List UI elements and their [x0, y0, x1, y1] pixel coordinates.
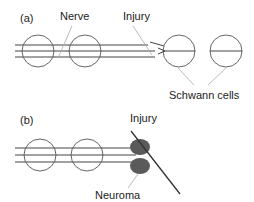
nerve-leader-line	[58, 26, 72, 58]
label-neuroma: Neuroma	[95, 189, 141, 201]
nerve-injury-diagram: (a)	[0, 0, 254, 202]
label-nerve: Nerve	[60, 10, 89, 22]
panel-b: (b) Injury Neuroma	[15, 112, 180, 201]
panel-b-id-label: (b)	[20, 114, 33, 126]
panel-a-id-label: (a)	[20, 12, 33, 24]
label-injury-a: Injury	[123, 10, 150, 22]
figure-root: (a)	[0, 0, 254, 202]
neuroma-bulb	[130, 158, 150, 174]
neuroma-leader-line	[128, 174, 138, 188]
schwann-leader-line-right	[208, 68, 226, 85]
schwann-leader-line-left	[178, 68, 194, 85]
label-schwann-cells: Schwann cells	[169, 89, 240, 101]
panel-b-neuromas	[130, 139, 150, 174]
label-injury-b: Injury	[130, 112, 157, 124]
panel-b-nerve-trunk	[15, 148, 136, 162]
panel-a-nerve-trunk	[15, 45, 155, 57]
panel-a-distal-schwann-cells	[163, 35, 242, 67]
retracted-end-arrow	[150, 42, 164, 46]
panel-a: (a)	[15, 10, 242, 101]
